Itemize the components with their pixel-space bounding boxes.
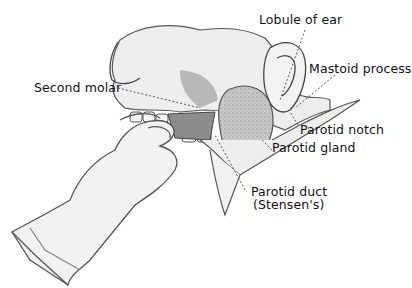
oral-cavity	[168, 112, 215, 140]
label-parotid-gland: Parotid gland	[272, 141, 356, 154]
label-second-molar: Second molar	[34, 81, 121, 94]
label-lobule-of-ear: Lobule of ear	[259, 13, 342, 26]
label-stensens: (Stensen's)	[253, 198, 324, 211]
label-mastoid-process: Mastoid process	[309, 62, 411, 75]
label-parotid-notch: Parotid notch	[300, 123, 384, 136]
hand	[12, 114, 177, 285]
